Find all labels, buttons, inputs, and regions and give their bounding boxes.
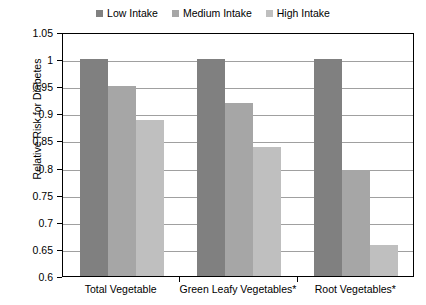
bar [253, 147, 281, 276]
bar [370, 245, 398, 276]
x-axis-tick-mark [297, 277, 298, 282]
bar-group [63, 34, 180, 276]
bars-layer [63, 34, 413, 276]
bar [108, 86, 136, 276]
x-axis-tick-label: Root Vegetables* [315, 283, 396, 296]
bar [314, 59, 342, 276]
legend-label: Medium Intake [183, 8, 252, 19]
plot-area [62, 33, 414, 277]
legend-item-high-intake: High Intake [266, 8, 330, 19]
bar [342, 170, 370, 276]
x-axis-tick-label: Green Leafy Vegetables* [180, 283, 297, 296]
y-axis-tick-label: 1.05 [33, 28, 53, 39]
legend-item-low-intake: Low Intake [96, 8, 158, 19]
bar-chart: Low Intake Medium Intake High Intake Rel… [0, 0, 426, 305]
y-axis-tick-label: 0.85 [33, 136, 53, 147]
y-axis-tick-label: 0.75 [33, 190, 53, 201]
x-axis-tick-labels: Total VegetableGreen Leafy Vegetables*Ro… [62, 283, 414, 299]
y-axis-tick-label: 0.9 [38, 109, 53, 120]
bar-group [180, 34, 297, 276]
y-axis-tick-label: 0.95 [33, 82, 53, 93]
bar [225, 103, 253, 277]
legend-swatch-icon [172, 10, 179, 17]
y-axis-tick-label: 0.7 [38, 217, 53, 228]
x-axis-tick-mark [179, 277, 180, 282]
legend-item-medium-intake: Medium Intake [172, 8, 252, 19]
x-axis-tick-marks [62, 277, 414, 282]
legend-swatch-icon [266, 10, 273, 17]
legend-swatch-icon [96, 10, 103, 17]
bar [136, 120, 164, 276]
x-axis-tick-label: Total Vegetable [85, 283, 157, 296]
y-axis-tick-label: 0.8 [38, 163, 53, 174]
y-axis-tick-label: 1 [47, 55, 53, 66]
bar-group [298, 34, 415, 276]
y-axis-tick-labels: 1.0510.950.90.850.80.750.70.650.6 [0, 33, 62, 277]
y-axis-tick-label: 0.65 [33, 244, 53, 255]
chart-legend: Low Intake Medium Intake High Intake [0, 5, 426, 21]
bar [80, 59, 108, 276]
legend-label: High Intake [277, 8, 330, 19]
bar [197, 59, 225, 276]
legend-label: Low Intake [107, 8, 158, 19]
y-axis-tick-label: 0.6 [38, 272, 53, 283]
